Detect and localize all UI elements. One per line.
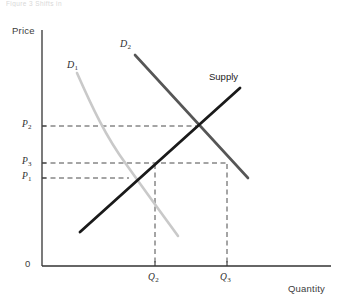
quantity-tick-q2-subscript: 2 [155, 276, 159, 284]
y-axis-label: Price [12, 25, 35, 36]
price-tick-p3: P3 [22, 156, 32, 168]
curve-label-d2: D2 [120, 38, 131, 51]
supply-demand-chart [0, 0, 343, 304]
curve-label-d1-subscript: 1 [74, 64, 78, 72]
axis-lines [42, 30, 331, 266]
price-tick-p2: P2 [22, 119, 32, 131]
guide-lines [42, 126, 227, 265]
curve-label-supply: Supply [209, 71, 238, 82]
quantity-tick-q2-symbol: Q [148, 272, 155, 282]
curve-label-d2-subscript: 2 [127, 43, 131, 51]
figure-root: Figure 3 Shifts in Price Quantity 0 P2 P… [0, 0, 343, 304]
price-tick-p3-symbol: P [22, 156, 28, 166]
price-tick-p3-subscript: 3 [28, 160, 32, 168]
x-axis-label: Quantity [288, 283, 325, 294]
curve-label-d1: D1 [67, 59, 78, 72]
demand-curve-d1 [77, 73, 178, 236]
quantity-tick-q2: Q2 [148, 272, 159, 284]
price-tick-p2-symbol: P [22, 119, 28, 129]
price-tick-p2-subscript: 2 [28, 123, 32, 131]
price-tick-p1-symbol: P [22, 171, 28, 181]
quantity-tick-q3-symbol: Q [220, 272, 227, 282]
price-tick-p1: P1 [22, 171, 32, 183]
quantity-tick-q3-subscript: 3 [227, 276, 231, 284]
origin-label: 0 [25, 258, 30, 269]
price-tick-p1-subscript: 1 [28, 175, 32, 183]
axis-tick-marks [42, 126, 227, 266]
quantity-tick-q3: Q3 [220, 272, 231, 284]
